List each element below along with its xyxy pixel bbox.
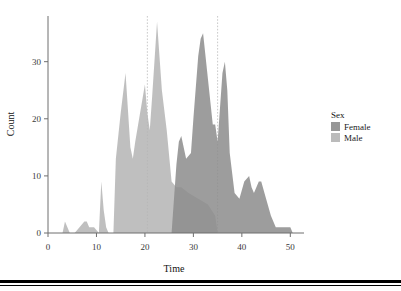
- legend-title: Sex: [331, 110, 345, 120]
- x-tick-label-40: 40: [237, 242, 247, 252]
- legend-entries-group: FemaleMale: [331, 122, 371, 143]
- x-tick-label-0: 0: [46, 242, 51, 252]
- legend-label-male[interactable]: Male: [344, 133, 363, 143]
- footer-rule-thick: [0, 280, 401, 283]
- legend: Sex FemaleMale: [331, 110, 371, 143]
- y-axis-title: Count: [5, 112, 16, 137]
- legend-label-female[interactable]: Female: [344, 122, 371, 132]
- x-axis-title: Time: [164, 263, 185, 274]
- y-tick-label-30: 30: [32, 57, 42, 67]
- legend-swatch-female[interactable]: [331, 122, 340, 131]
- area-chart: 01020304050 0102030 Time Count Sex Femal…: [0, 0, 401, 291]
- x-tick-label-20: 20: [140, 242, 150, 252]
- x-tick-label-50: 50: [286, 242, 296, 252]
- y-tick-label-20: 20: [32, 114, 42, 124]
- legend-swatch-male[interactable]: [331, 133, 340, 142]
- y-tick-label-0: 0: [37, 228, 42, 238]
- footer-rule-thin: [0, 285, 401, 286]
- figure-container: 01020304050 0102030 Time Count Sex Femal…: [0, 0, 401, 291]
- x-tick-label-10: 10: [92, 242, 102, 252]
- x-tick-label-30: 30: [189, 242, 199, 252]
- y-axis-ticks-group: 0102030: [32, 57, 48, 238]
- y-tick-label-10: 10: [32, 171, 42, 181]
- x-axis-ticks-group: 01020304050: [46, 233, 296, 252]
